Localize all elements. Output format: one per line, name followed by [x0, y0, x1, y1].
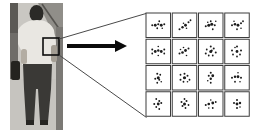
descriptor-dot	[210, 72, 212, 74]
descriptor-dot	[160, 102, 162, 104]
descriptor-dot	[236, 107, 238, 109]
descriptor-dot	[182, 105, 184, 107]
descriptor-dot	[157, 103, 160, 106]
descriptor-dot	[240, 22, 242, 24]
photo-left-strip-top	[10, 3, 18, 33]
descriptor-dot	[184, 98, 186, 100]
descriptor-dot	[210, 82, 212, 84]
descriptor-dot	[237, 24, 240, 27]
callout-line-top	[59, 14, 146, 40]
figure-canvas	[0, 0, 254, 136]
descriptor-dot	[159, 74, 161, 76]
descriptor-dot	[205, 104, 207, 106]
descriptor-dot	[211, 74, 214, 77]
descriptor-dot	[154, 50, 157, 53]
descriptor-dot	[210, 99, 212, 101]
descriptor-dot	[157, 23, 159, 25]
descriptor-dot	[239, 106, 241, 108]
descriptor-dot	[239, 54, 241, 56]
descriptor-dot	[236, 50, 239, 53]
descriptor-dot	[155, 106, 157, 108]
figure-svg	[0, 0, 254, 136]
descriptor-dot	[213, 48, 215, 50]
descriptor-dot	[181, 51, 184, 54]
person-right-arm	[21, 49, 27, 64]
descriptor-dot	[205, 25, 207, 27]
descriptor-dot	[151, 24, 153, 26]
descriptor-dot	[158, 20, 160, 22]
descriptor-dot	[237, 72, 239, 74]
descriptor-dot	[233, 20, 235, 22]
callout-line-bottom	[59, 55, 147, 118]
descriptor-dot	[208, 75, 210, 77]
grid-cell	[225, 66, 250, 91]
descriptor-dot	[212, 55, 214, 57]
grid-cell	[199, 92, 224, 117]
descriptor-dot	[188, 104, 190, 106]
descriptor-dot	[208, 55, 210, 57]
descriptor-grid	[146, 13, 249, 116]
descriptor-dot	[181, 26, 183, 28]
descriptor-dot	[234, 76, 236, 78]
descriptor-dot	[210, 46, 212, 48]
descriptor-dot	[215, 20, 217, 22]
descriptor-dot	[155, 98, 157, 100]
descriptor-dot	[236, 99, 238, 101]
descriptor-dot	[188, 21, 190, 23]
descriptor-dot	[207, 21, 209, 23]
descriptor-dot	[180, 49, 182, 51]
descriptor-dot	[233, 102, 235, 104]
descriptor-dot	[183, 103, 186, 106]
descriptor-dot	[156, 82, 158, 84]
descriptor-dot	[158, 79, 160, 81]
descriptor-dot	[215, 101, 217, 103]
descriptor-dot	[181, 101, 183, 103]
descriptor-dot	[210, 78, 212, 80]
descriptor-dot	[153, 103, 155, 105]
descriptor-dot	[206, 49, 208, 51]
descriptor-dot	[207, 24, 210, 27]
descriptor-dot	[186, 27, 188, 29]
descriptor-dot	[183, 22, 185, 24]
bag	[11, 61, 20, 80]
arrow-head	[115, 40, 127, 52]
descriptor-dot	[240, 50, 242, 52]
person-shoe-left	[26, 120, 34, 125]
descriptor-dot	[211, 50, 213, 52]
descriptor-dot	[157, 49, 159, 51]
descriptor-dot	[189, 79, 191, 81]
person-hair	[30, 5, 44, 22]
descriptor-dot	[212, 107, 214, 109]
descriptor-dot	[188, 48, 190, 50]
descriptor-dot	[231, 50, 233, 52]
descriptor-dot	[187, 81, 189, 83]
descriptor-dot	[231, 77, 233, 79]
descriptor-dot	[151, 49, 153, 51]
descriptor-dot	[156, 73, 158, 75]
person-left-arm	[51, 45, 57, 62]
descriptor-dot	[205, 53, 207, 55]
descriptor-dot	[242, 20, 244, 22]
descriptor-dot	[236, 46, 238, 48]
descriptor-dot	[160, 50, 163, 53]
descriptor-dot	[157, 55, 159, 57]
descriptor-dot	[158, 108, 160, 110]
descriptor-dot	[210, 23, 213, 26]
descriptor-dot	[184, 73, 186, 75]
descriptor-dot	[179, 28, 181, 30]
descriptor-dot	[187, 75, 189, 77]
descriptor-dot	[183, 76, 186, 79]
descriptor-dot	[163, 23, 165, 25]
descriptor-dot	[207, 103, 210, 106]
descriptor-dot	[234, 81, 236, 83]
descriptor-dot	[163, 49, 165, 51]
grid-cell	[172, 39, 197, 64]
descriptor-dot	[236, 103, 239, 106]
descriptor-dot	[151, 53, 153, 55]
descriptor-dot	[239, 81, 241, 83]
descriptor-dot	[161, 27, 163, 29]
descriptor-dot	[240, 27, 242, 29]
descriptor-dot	[240, 77, 242, 79]
descriptor-dot	[190, 19, 192, 21]
descriptor-dot	[211, 102, 214, 105]
